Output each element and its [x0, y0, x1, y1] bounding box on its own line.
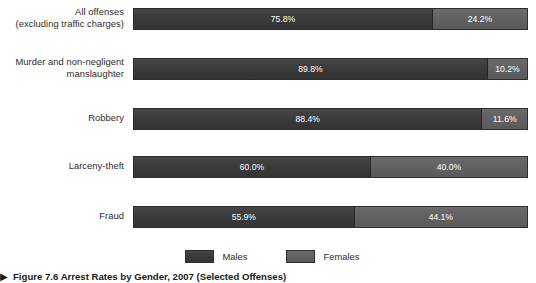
legend-label-males: Males: [223, 251, 248, 262]
row-label-line1: Murder and non-negligent: [15, 56, 124, 67]
bar-segment-females[interactable]: 11.6%: [481, 109, 527, 129]
bar-value-females: 44.1%: [429, 212, 453, 222]
bar-segment-females[interactable]: 44.1%: [354, 207, 527, 227]
bar-value-females: 24.2%: [468, 14, 492, 24]
chart-row: Murder and non-negligent manslaughter 89…: [0, 58, 536, 80]
bar-track: 88.4% 11.6%: [133, 108, 528, 130]
legend-swatch-females-icon: [286, 250, 315, 263]
row-label: Robbery: [0, 112, 124, 124]
bar-value-males: 75.8%: [271, 14, 295, 24]
row-label-line1: All offenses: [75, 6, 124, 17]
legend-swatch-males-icon: [185, 250, 214, 263]
bar-segment-females[interactable]: 40.0%: [370, 157, 527, 177]
figure-caption: ▶ Figure 7.6 Arrest Rates by Gender, 200…: [0, 271, 536, 283]
row-label: All offenses (excluding traffic charges): [0, 6, 124, 29]
bar-track: 60.0% 40.0%: [133, 156, 528, 178]
legend-item-females[interactable]: Females: [286, 250, 360, 263]
chart-row: All offenses (excluding traffic charges)…: [0, 8, 536, 30]
legend-item-males[interactable]: Males: [185, 250, 248, 263]
bar-track: 55.9% 44.1%: [133, 206, 528, 228]
chart-row: Fraud 55.9% 44.1%: [0, 206, 536, 228]
bar-value-males: 88.4%: [296, 114, 320, 124]
bar-segment-females[interactable]: 10.2%: [487, 59, 527, 79]
row-label: Murder and non-negligent manslaughter: [0, 56, 124, 79]
row-label: Larceny-theft: [0, 160, 124, 172]
row-label-line1: Fraud: [99, 210, 124, 221]
chart-legend: Males Females: [0, 248, 536, 264]
legend-label-females: Females: [324, 251, 360, 262]
bar-track: 75.8% 24.2%: [133, 8, 528, 30]
figure-container: All offenses (excluding traffic charges)…: [0, 0, 536, 283]
bar-segment-males[interactable]: 55.9%: [134, 207, 354, 227]
row-label-line1: Larceny-theft: [69, 160, 124, 171]
bar-value-females: 10.2%: [495, 64, 519, 74]
bar-segment-males[interactable]: 75.8%: [134, 9, 432, 29]
bar-value-females: 40.0%: [437, 162, 461, 172]
bar-value-males: 55.9%: [232, 212, 256, 222]
chart-row: Larceny-theft 60.0% 40.0%: [0, 156, 536, 178]
bar-value-males: 89.8%: [298, 64, 322, 74]
bar-track: 89.8% 10.2%: [133, 58, 528, 80]
bar-segment-males[interactable]: 88.4%: [134, 109, 481, 129]
row-label: Fraud: [0, 210, 124, 222]
bar-value-males: 60.0%: [240, 162, 264, 172]
bar-segment-males[interactable]: 89.8%: [134, 59, 487, 79]
bar-segment-males[interactable]: 60.0%: [134, 157, 370, 177]
row-label-line2: manslaughter: [0, 68, 124, 80]
bar-value-females: 11.6%: [493, 114, 517, 124]
row-label-line2: (excluding traffic charges): [0, 18, 124, 30]
bar-segment-females[interactable]: 24.2%: [432, 9, 527, 29]
chart-row: Robbery 88.4% 11.6%: [0, 108, 536, 130]
caption-text: Figure 7.6 Arrest Rates by Gender, 2007 …: [13, 271, 286, 282]
caption-marker-icon: ▶: [0, 271, 8, 282]
row-label-line1: Robbery: [88, 112, 124, 123]
